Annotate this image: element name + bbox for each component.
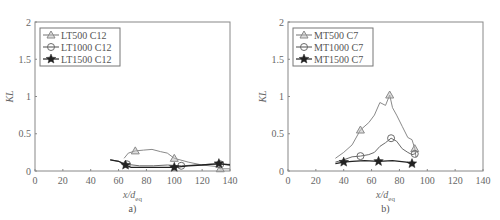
x-tick-label: 0	[33, 175, 38, 186]
y-tick-label: 1.5	[272, 54, 285, 65]
y-tick-label: 1	[279, 91, 284, 102]
legend-entry: MT500 C7	[314, 30, 358, 41]
x-tick-label: 20	[311, 175, 321, 186]
chart-panel-a: 02040608010012014000.511.52KLx/deqa)LT50…	[0, 0, 250, 220]
y-tick-label: 0.5	[272, 128, 285, 139]
x-tick-label: 80	[141, 175, 151, 186]
y-axis-label: KL	[257, 90, 268, 104]
panel-caption: a)	[129, 203, 137, 215]
legend-entry: LT1500 C12	[61, 54, 111, 65]
star-marker-icon	[374, 156, 384, 165]
legend-entry: LT500 C12	[61, 30, 106, 41]
x-tick-label: 60	[367, 175, 377, 186]
y-tick-label: 1	[26, 91, 31, 102]
x-tick-label: 100	[420, 175, 435, 186]
legend: MT500 C7MT1000 C7MT1500 C7	[293, 28, 373, 66]
legend-entry: LT1000 C12	[61, 42, 111, 53]
star-marker-icon	[407, 159, 417, 168]
x-tick-label: 20	[58, 175, 68, 186]
x-tick-label: 40	[86, 175, 96, 186]
x-tick-label: 140	[223, 175, 238, 186]
x-tick-label: 0	[286, 175, 291, 186]
x-tick-label: 120	[448, 175, 463, 186]
series-triangle	[335, 91, 418, 158]
series-triangle	[124, 147, 230, 172]
x-tick-label: 80	[394, 175, 404, 186]
x-tick-label: 60	[114, 175, 124, 186]
chart-b: 02040608010012014000.511.52KLx/deqb)MT50…	[250, 0, 500, 220]
legend: LT500 C12LT1000 C12LT1500 C12	[40, 28, 120, 66]
triangle-marker-icon	[386, 91, 394, 98]
y-tick-label: 0	[26, 166, 31, 177]
y-tick-label: 2	[279, 17, 284, 28]
y-tick-label: 0	[279, 166, 284, 177]
chart-panel-b: 02040608010012014000.511.52KLx/deqb)MT50…	[250, 0, 500, 220]
y-tick-label: 1.5	[19, 54, 32, 65]
y-tick-label: 2	[26, 17, 31, 28]
triangle-marker-icon	[170, 154, 178, 161]
legend-entry: MT1000 C7	[314, 42, 363, 53]
y-axis-label: KL	[4, 90, 15, 104]
panel-caption: b)	[381, 203, 389, 215]
chart-a: 02040608010012014000.511.52KLx/deqa)LT50…	[0, 0, 250, 220]
x-tick-label: 40	[339, 175, 349, 186]
legend-entry: MT1500 C7	[314, 54, 363, 65]
x-axis-label: x/deq	[375, 189, 395, 203]
y-tick-label: 0.5	[19, 128, 32, 139]
x-axis-label: x/deq	[122, 189, 142, 203]
x-tick-label: 140	[476, 175, 491, 186]
x-tick-label: 100	[167, 175, 182, 186]
x-tick-label: 120	[195, 175, 210, 186]
